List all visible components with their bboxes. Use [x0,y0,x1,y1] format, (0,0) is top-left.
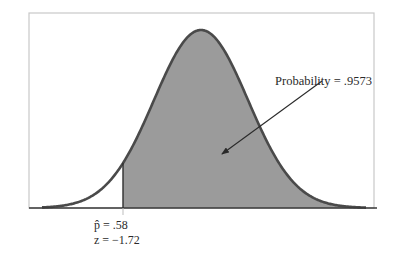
normal-distribution-chart: Probability = .9573 p̂ = .58 z = −1.72 [0,0,398,257]
z-score-label: z = −1.72 [94,233,140,247]
shaded-probability-region [123,30,366,208]
p-hat-label: p̂ = .58 [94,218,128,232]
probability-annotation: Probability = .9573 [275,74,372,88]
